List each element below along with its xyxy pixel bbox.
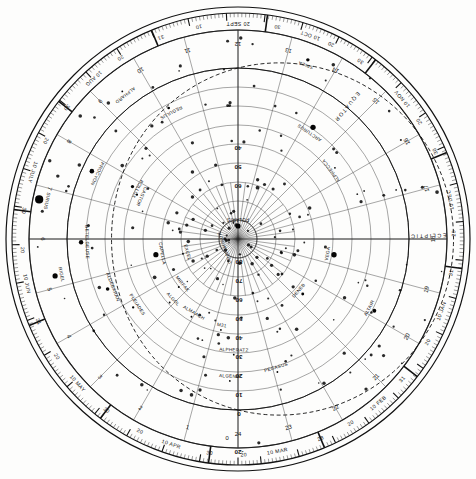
ra-hour-label: 12 [234, 41, 241, 47]
star-marker [90, 169, 95, 174]
date-scale-label: 30 [206, 449, 213, 456]
star-marker [276, 371, 278, 373]
star-marker [331, 252, 336, 257]
declination-label: 0 [237, 411, 241, 418]
star-marker [121, 91, 123, 93]
star-marker [182, 253, 184, 255]
star-name: ALPHERATZ [219, 347, 249, 353]
star-marker [220, 329, 222, 331]
star-marker [372, 309, 376, 313]
declination-label: 60 [234, 183, 241, 190]
star-marker [79, 240, 83, 244]
star-marker [178, 286, 180, 288]
planisphere-svg: 20 SEPT103010 OCT203010 NOV203010 DEC203… [0, 0, 476, 479]
date-scale-label: 10 [195, 24, 203, 31]
declination-label: 70 [235, 278, 242, 285]
star-marker [35, 195, 43, 203]
date-scale-label: 30 [273, 24, 281, 31]
date-scale-label: 20 SEPT [226, 21, 250, 27]
star-marker [301, 293, 304, 296]
star-marker [153, 252, 158, 257]
star-chart-canvas: 20 SEPT103010 OCT203010 NOV203010 DEC203… [0, 0, 476, 479]
star-marker [191, 316, 193, 318]
date-scale-label: 30 [21, 207, 28, 214]
star-marker [167, 107, 170, 110]
star-marker [229, 380, 231, 382]
star-marker [169, 302, 171, 304]
ra-hour-label: 24 [235, 431, 242, 437]
star-marker [233, 354, 235, 356]
star-marker [132, 306, 134, 308]
star-marker [131, 185, 134, 188]
date-scale-label: 20 [20, 247, 26, 254]
star-marker [106, 287, 110, 291]
declination-label: -20 [234, 449, 244, 456]
ecliptic-label: ECLIPTIC [409, 233, 446, 240]
star-marker [306, 58, 309, 61]
right-ascension-lines [29, 30, 447, 448]
pole-star-label: POLARIS [227, 217, 249, 222]
star-marker [310, 125, 315, 130]
star-marker [53, 273, 58, 278]
declination-label: 50 [234, 164, 241, 171]
declination-label: 40 [235, 335, 242, 342]
declination-label: 30 [235, 354, 242, 361]
star-name: BETELGEUSE [84, 225, 90, 259]
star-marker [334, 167, 336, 169]
declination-label: 10 [235, 392, 242, 399]
declination-label: 40 [234, 145, 241, 152]
